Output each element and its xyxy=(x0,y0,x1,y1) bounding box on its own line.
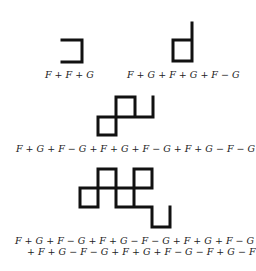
curve-step-1 xyxy=(62,40,82,62)
formula-step-3: F + G + F − G + F + G + F − G + F + G − … xyxy=(16,144,255,154)
formula-step-4-line-1: F + G + F − G + F + G − F − G + F + G + … xyxy=(15,236,254,246)
formula-step-4-line-2: + F + G − F − G + F + G + F − G − F + G … xyxy=(27,247,256,257)
l-system-figure xyxy=(0,0,256,271)
curve-step-3 xyxy=(98,97,153,135)
curve-step-4 xyxy=(80,169,170,227)
curve-step-2 xyxy=(173,23,192,61)
formula-step-1: F + F + G xyxy=(45,70,94,80)
formula-step-2: F + G + F + G + F − G xyxy=(127,70,240,80)
